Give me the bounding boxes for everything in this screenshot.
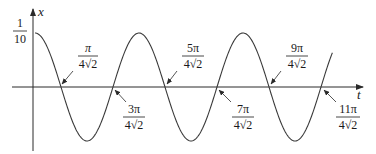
- arrow: [219, 90, 231, 102]
- svg-text:4√2: 4√2: [79, 57, 98, 71]
- svg-text:10: 10: [14, 32, 26, 46]
- svg-text:1: 1: [17, 16, 23, 30]
- zero-crossing-label-1: π 4√2: [62, 41, 98, 84]
- zero-crossing-label-4: 7π 4√2: [219, 90, 254, 132]
- x-axis-label: x: [37, 4, 44, 19]
- arrow: [324, 90, 336, 102]
- zero-crossing-label-3: 5π 4√2: [167, 41, 204, 84]
- svg-text:7π: 7π: [237, 102, 249, 116]
- t-axis-label: t: [357, 87, 361, 102]
- svg-text:4√2: 4√2: [234, 118, 253, 132]
- arrow: [167, 71, 177, 84]
- zero-crossing-label-5: 9π 4√2: [271, 41, 308, 84]
- svg-text:π: π: [85, 41, 92, 55]
- svg-text:9π: 9π: [291, 41, 303, 55]
- chart-svg: x t 1 10 π 4√2 3π 4√2 5π: [0, 0, 376, 154]
- svg-text:4√2: 4√2: [288, 57, 307, 71]
- zero-crossing-label-2: 3π 4√2: [115, 90, 145, 132]
- arrow: [271, 71, 281, 84]
- svg-text:4√2: 4√2: [184, 57, 203, 71]
- cosine-oscillation-chart: x t 1 10 π 4√2 3π 4√2 5π: [0, 0, 376, 154]
- svg-text:11π: 11π: [339, 102, 357, 116]
- svg-text:4√2: 4√2: [339, 118, 358, 132]
- arrow: [62, 71, 73, 84]
- y-tick-label-one-tenth: 1 10: [13, 16, 27, 46]
- svg-text:3π: 3π: [128, 102, 140, 116]
- zero-crossing-label-6: 11π 4√2: [324, 90, 360, 132]
- svg-text:5π: 5π: [187, 41, 199, 55]
- svg-text:4√2: 4√2: [125, 118, 144, 132]
- arrow: [115, 90, 126, 102]
